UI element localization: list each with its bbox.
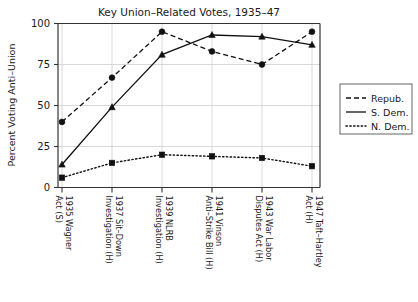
- data-point-2-4: [259, 155, 264, 160]
- legend-label-2: N. Dem.: [371, 121, 410, 132]
- x-axis-tick-labels: 1935 WagnerAct (S)1937 Sit–DownInvestiga…: [54, 196, 324, 270]
- horizontal-gridlines: [58, 24, 320, 188]
- x-tick-label-5: 1947 Taft–Hartley: [314, 196, 324, 268]
- x-tick-label-3: 1941 Vinson: [214, 196, 224, 247]
- chart-title: Key Union–Related Votes, 1935–47: [98, 6, 280, 18]
- y-tick-label-50: 50: [37, 100, 50, 111]
- y-tick-label-100: 100: [31, 18, 50, 29]
- chart-figure: Key Union–Related Votes, 1935–47 Percent…: [0, 0, 418, 302]
- series-repub: [59, 29, 315, 125]
- chart-legend: Repub.S. Dem.N. Dem.: [340, 84, 412, 134]
- x-tick-label-5: Act (H): [304, 196, 314, 224]
- data-point-2-0: [59, 175, 64, 180]
- legend-label-1: S. Dem.: [371, 107, 409, 118]
- data-point-2-5: [309, 163, 314, 168]
- x-tick-label-1: Investigation (H): [104, 196, 114, 264]
- y-axis-title: Percent Voting Anti–Union: [6, 44, 17, 167]
- x-tick-label-2: Investigation (H): [154, 196, 164, 264]
- x-tick-label-4: 1943 War Labor: [264, 196, 274, 262]
- x-tick-label-0: 1935 Wagner: [64, 196, 74, 251]
- data-point-2-3: [209, 154, 214, 159]
- data-point-2-1: [109, 160, 114, 165]
- series-line-1: [62, 35, 312, 165]
- y-tick-label-75: 75: [37, 59, 50, 70]
- data-point-0-1: [109, 75, 115, 81]
- key-union-related-votes-line-chart: Key Union–Related Votes, 1935–47 Percent…: [0, 0, 418, 302]
- data-point-0-4: [259, 62, 265, 68]
- x-tick-label-4: Disputes Act (H): [254, 196, 264, 263]
- x-tick-label-1: 1937 Sit–Down: [114, 196, 124, 257]
- data-point-0-3: [209, 48, 215, 54]
- x-tick-label-2: 1939 NLRB: [164, 196, 174, 242]
- data-point-0-0: [59, 119, 65, 125]
- series-line-2: [62, 155, 312, 178]
- series-n-dem: [59, 152, 314, 180]
- data-series-layer: [59, 29, 315, 181]
- data-point-0-2: [159, 29, 165, 35]
- y-tick-label-0: 0: [44, 182, 50, 193]
- data-point-0-5: [309, 29, 315, 35]
- y-axis-ticks: 0255075100: [31, 18, 58, 193]
- legend-label-0: Repub.: [371, 93, 404, 104]
- y-tick-label-25: 25: [37, 141, 50, 152]
- x-axis-ticks: [62, 188, 312, 193]
- data-point-2-2: [159, 152, 164, 157]
- x-tick-label-0: Act (S): [54, 196, 64, 223]
- x-tick-label-3: Anti–Strike Bill (H): [204, 196, 214, 270]
